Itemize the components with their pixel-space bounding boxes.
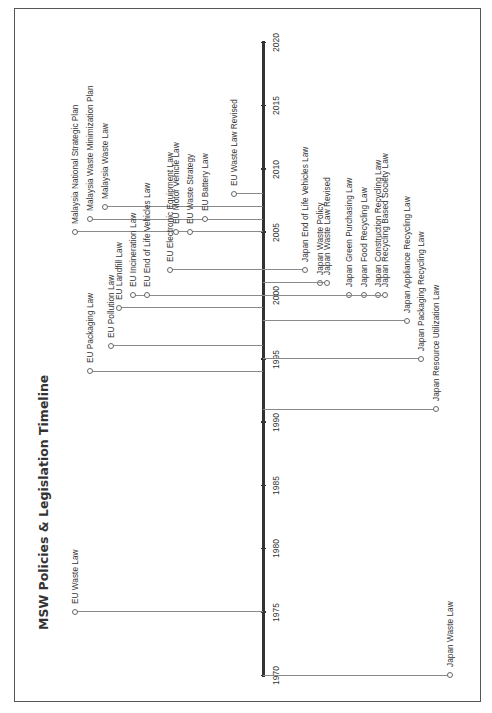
event-stem — [75, 611, 263, 612]
event-marker-icon — [187, 229, 193, 235]
event-label: Malaysia National Strategic Plan — [70, 104, 80, 223]
event-marker-icon — [167, 267, 173, 273]
axis-year-label: 2010 — [271, 160, 281, 179]
event-stem — [205, 219, 263, 220]
event-stem — [111, 345, 263, 346]
axis-year-label: 1980 — [271, 539, 281, 558]
event-stem — [263, 675, 450, 676]
axis-year-label: 2020 — [271, 33, 281, 52]
event-marker-icon — [324, 280, 330, 286]
event-label: Japan Resource Utilization Law — [431, 285, 441, 401]
axis-year-label: 2015 — [271, 96, 281, 115]
event-label: EU Waste Law — [70, 549, 80, 604]
event-marker-icon — [116, 305, 122, 311]
event-label: Japan Green Purchasing Law — [344, 178, 354, 287]
event-label: Malaysia Waste Law — [100, 123, 110, 199]
event-label: EU Incineration Law — [128, 213, 138, 287]
axis-year-label: 1995 — [271, 350, 281, 369]
event-marker-icon — [418, 356, 424, 362]
event-label: Japan Packaging Recycling Law — [416, 231, 426, 350]
event-marker-icon — [102, 204, 108, 210]
event-stem — [263, 282, 327, 283]
axis-year-label: 1985 — [271, 476, 281, 495]
axis-tick — [261, 42, 266, 44]
event-label: EU Battery Law — [200, 154, 210, 212]
event-marker-icon — [72, 229, 78, 235]
event-stem — [234, 193, 263, 194]
event-label: Japan End of Life Vehicles Law — [300, 147, 310, 262]
diagram-title: MSW Policies & Legislation Timeline — [36, 375, 51, 630]
event-stem — [147, 295, 263, 296]
event-stem — [90, 371, 263, 372]
axis-year-label: 2005 — [271, 223, 281, 242]
axis-tick — [261, 421, 266, 423]
event-label: EU Electronic Equipment Law — [165, 152, 175, 262]
axis-year-label: 1990 — [271, 413, 281, 432]
event-marker-icon — [231, 191, 237, 197]
axis-year-label: 1970 — [271, 666, 281, 685]
event-stem — [105, 206, 263, 207]
event-marker-icon — [72, 609, 78, 615]
event-label: Japan Recycling Based Society Law — [380, 153, 390, 287]
event-stem — [263, 409, 436, 410]
event-stem — [263, 269, 305, 270]
axis-tick — [261, 168, 266, 170]
axis-year-label: 1975 — [271, 603, 281, 622]
event-stem — [263, 320, 407, 321]
event-label: Japan Waste Law — [445, 601, 455, 667]
axis-tick — [261, 485, 266, 487]
event-marker-icon — [302, 267, 308, 273]
axis-year-label: 2000 — [271, 286, 281, 305]
event-stem — [119, 307, 263, 308]
event-stem — [170, 269, 263, 270]
event-marker-icon — [447, 672, 453, 678]
event-label: Japan Appliance Recycling Law — [402, 196, 412, 313]
axis-tick — [261, 105, 266, 107]
event-label: EU Packaging Law — [85, 293, 95, 363]
event-label: EU Pollution Law — [106, 275, 116, 338]
event-stem — [263, 295, 385, 296]
event-label: Japan Waste Law Revised — [322, 177, 332, 275]
event-marker-icon — [108, 343, 114, 349]
event-label: Japan Food Recycling Law — [359, 188, 369, 288]
event-stem — [263, 358, 421, 359]
event-label: Malaysia Waste Minimization Plan — [85, 86, 95, 212]
event-label: EU Waste Strategy — [185, 154, 195, 224]
event-label: EU Waste Law Revised — [229, 99, 239, 186]
axis-tick — [261, 548, 266, 550]
event-marker-icon — [404, 318, 410, 324]
event-stem — [190, 231, 263, 232]
event-label: EU End of Life Vehicles Law — [142, 183, 152, 287]
